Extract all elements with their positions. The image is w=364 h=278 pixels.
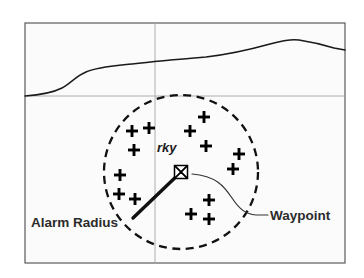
- map-canvas[interactable]: rky Alarm Radius Waypoint: [0, 0, 364, 278]
- waypoint-label: Waypoint: [270, 208, 331, 223]
- waypoint-marker[interactable]: [175, 166, 188, 179]
- chart-name-label: rky: [157, 140, 177, 155]
- alarm-radius-label: Alarm Radius: [31, 215, 118, 230]
- chartplotter-map-view: rky Alarm Radius Waypoint: [0, 0, 364, 278]
